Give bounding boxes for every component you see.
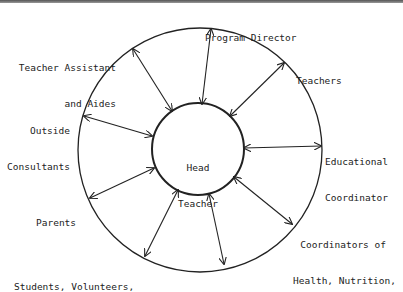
label-teacher-assistant: Teacher Assistant and Aides — [14, 38, 116, 122]
label-line: Program Director — [205, 32, 297, 44]
label-line: Outside — [6, 125, 70, 137]
label-line: Educational — [325, 156, 388, 168]
label-children: Children — [218, 273, 264, 292]
arrow-parents — [90, 168, 154, 198]
label-program-director: Program Director — [205, 8, 297, 56]
center-label-line2: Teacher — [168, 198, 228, 210]
label-educational-coordinator: Educational Coordinator — [325, 132, 388, 216]
arrow-educational-coordinator — [244, 146, 321, 148]
label-line: Consultants — [6, 161, 70, 173]
center-label: Head Teacher — [168, 138, 228, 222]
arrow-teacher-assistant — [133, 49, 172, 111]
arrow-teachers — [230, 63, 284, 116]
arrow-coordinators-health — [234, 177, 292, 224]
label-coordinators-health: Coordinators of Health, Nutrition, and S… — [286, 215, 398, 292]
label-line: Coordinator — [325, 192, 388, 204]
label-students-volunteers: Students, Volunteers, Job Trainees, and … — [14, 257, 134, 292]
label-line: Coordinators of — [286, 239, 398, 251]
label-line: Teacher Assistant — [14, 62, 116, 74]
label-teachers: Teachers — [296, 51, 342, 99]
label-line: Parents — [36, 217, 76, 229]
center-label-line1: Head — [168, 162, 228, 174]
label-line: Health, Nutrition, — [286, 275, 398, 287]
label-line: Students, Volunteers, — [14, 281, 134, 292]
label-parents: Parents — [36, 193, 76, 241]
label-line: Teachers — [296, 75, 342, 87]
label-line: and Aides — [14, 98, 116, 110]
